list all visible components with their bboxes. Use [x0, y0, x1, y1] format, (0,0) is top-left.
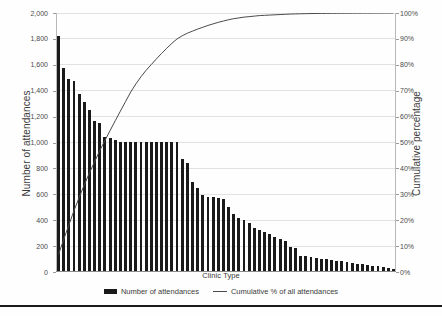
y-tick-label-left: 2,000: [14, 10, 48, 17]
legend-label-bars: Number of attendances: [121, 287, 199, 296]
chart-legend: Number of attendances Cumulative % of al…: [0, 287, 442, 296]
legend-bar-swatch-icon: [104, 289, 117, 294]
legend-item-bars: Number of attendances: [104, 287, 199, 296]
y-tick-mark-left: [53, 272, 56, 273]
y-tick-label-left: 200: [14, 243, 48, 250]
y-tick-label-right: 90%: [400, 35, 434, 42]
y-tick-label-right: 70%: [400, 87, 434, 94]
pareto-chart: Number of attendances Cumulative percent…: [0, 0, 442, 316]
plot-area: [56, 13, 396, 272]
y-tick-mark-right: [396, 194, 399, 195]
y-tick-label-right: 100%: [400, 10, 434, 17]
y-tick-label-left: 1,600: [14, 61, 48, 68]
legend-line-swatch-icon: [213, 291, 227, 292]
y-tick-label-right: 60%: [400, 113, 434, 120]
y-tick-mark-right: [396, 65, 399, 66]
y-tick-mark-right: [396, 39, 399, 40]
y-tick-mark-right: [396, 143, 399, 144]
legend-label-line: Cumulative % of all attendances: [231, 287, 338, 296]
y-tick-label-left: 800: [14, 165, 48, 172]
y-tick-label-right: 30%: [400, 191, 434, 198]
y-tick-label-left: 600: [14, 191, 48, 198]
y-tick-mark-right: [396, 168, 399, 169]
cumulative-line-series: [56, 13, 396, 272]
legend-item-line: Cumulative % of all attendances: [213, 287, 338, 296]
y-tick-label-right: 10%: [400, 243, 434, 250]
bottom-divider: [0, 305, 442, 307]
y-tick-label-left: 400: [14, 217, 48, 224]
y-tick-mark-right: [396, 246, 399, 247]
y-tick-label-right: 50%: [400, 139, 434, 146]
y-tick-label-left: 1,800: [14, 35, 48, 42]
y-tick-label-left: 1,000: [14, 139, 48, 146]
y-tick-mark-right: [396, 91, 399, 92]
y-tick-mark-right: [396, 220, 399, 221]
y-tick-mark-right: [396, 272, 399, 273]
y-tick-mark-right: [396, 117, 399, 118]
y-tick-label-left: 1,200: [14, 113, 48, 120]
y-tick-label-right: 0%: [400, 269, 434, 276]
y-tick-mark-right: [396, 13, 399, 14]
y-tick-label-right: 20%: [400, 217, 434, 224]
y-tick-label-right: 40%: [400, 165, 434, 172]
y-tick-label-left: 0: [14, 269, 48, 276]
x-axis-title: Clinic Type: [0, 271, 442, 280]
y-tick-label-left: 1,400: [14, 87, 48, 94]
y-tick-label-right: 80%: [400, 61, 434, 68]
